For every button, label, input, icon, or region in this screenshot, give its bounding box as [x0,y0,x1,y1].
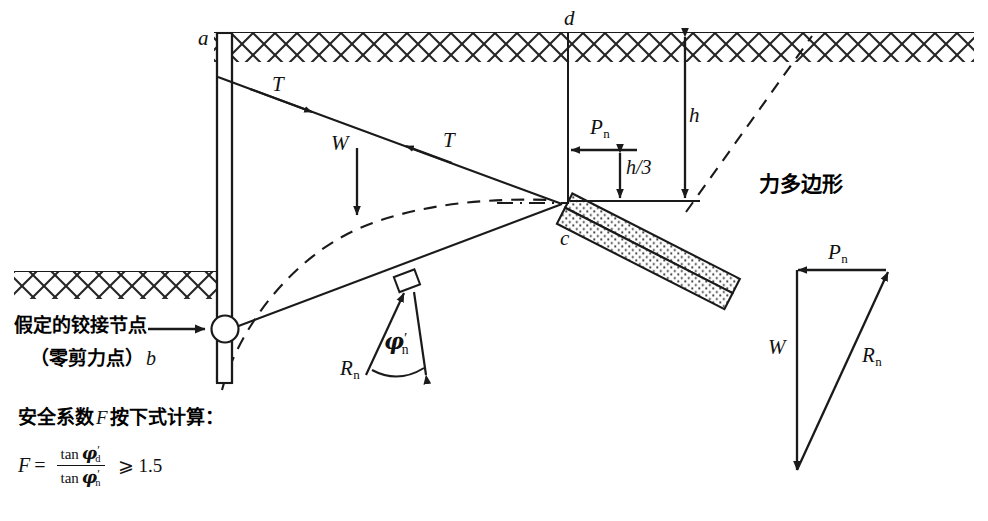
formula-num-tan: tan [61,446,82,462]
left-ground-surface [14,272,216,299]
polygon-Rn-subscript: n [875,354,882,369]
formula-relation: ⩾ [112,454,139,477]
hinge-annotation-line2: （零剪力点）b [30,348,156,368]
tie-rod-line [218,77,562,204]
label-pressure-Pn: Pn [590,117,610,140]
safety-factor-note: 安全系数F按下式计算： [18,408,224,427]
label-weight-W: W [331,133,349,154]
label-Rn-base: R [340,356,353,380]
formula-row: F = tanφ′d tanφ′n ⩾ 1.5 [18,443,162,488]
label-height-h: h [689,105,700,126]
hinge-annotation-point-letter: b [144,347,156,369]
polygon-Pn-subscript: n [841,251,848,266]
figure-canvas: a d c T T W h h/3 Pn Rn φ′n 力多边形 Pn W Rn… [0,0,988,521]
formula-den-sub: n [95,477,101,488]
formula-numerator: tanφ′d [57,443,105,465]
label-tie-force-upper: T [272,74,284,95]
label-angle-phi-n: φ′n [384,330,409,356]
formula-value: 1.5 [139,455,163,477]
label-h-over-3: h/3 [626,157,652,177]
formula-num-sub: d [95,453,101,464]
assumed-hinge-marker [212,316,239,343]
formula-lhs: F [18,454,30,477]
hinge-annotation-line2-text: （零剪力点） [30,347,144,369]
polygon-label-W: W [768,337,786,358]
slip-surface-curve [222,200,552,390]
formula-equals: = [30,454,49,477]
safety-note-prefix: 安全系数 [18,406,94,428]
top-ground-surface [214,33,974,62]
label-reaction-Rn-plane: Rn [340,358,360,381]
polygon-label-Pn: Pn [828,242,848,265]
polygon-label-Rn: Rn [862,345,882,368]
label-Rn-subscript: n [353,367,360,382]
label-tie-force-lower: T [443,130,455,151]
label-point-c: c [560,228,569,249]
right-angle-marker [394,269,420,292]
label-Pn-base: P [590,115,603,139]
formula-den-tan: tan [61,470,82,486]
inclined-anchor-block [557,194,740,310]
formula-fraction: tanφ′d tanφ′n [57,443,105,488]
polygon-Rn-base: R [862,343,875,367]
label-force-polygon-title: 力多边形 [759,174,843,195]
safety-factor-formula: F = tanφ′d tanφ′n ⩾ 1.5 [18,443,162,488]
formula-denominator: tanφ′n [57,465,105,488]
label-h-over-3-text: h/3 [626,156,652,178]
safety-note-symbol: F [94,407,110,428]
force-polygon [797,270,888,470]
label-Pn-subscript: n [603,126,610,141]
label-point-a: a [198,28,209,49]
polygon-Pn-base: P [828,240,841,264]
label-phi-subscript: n [401,342,408,357]
safety-note-suffix: 按下式计算： [110,406,224,428]
label-point-d: d [564,8,575,29]
hinge-annotation-line1: 假定的铰接节点 [14,316,147,335]
